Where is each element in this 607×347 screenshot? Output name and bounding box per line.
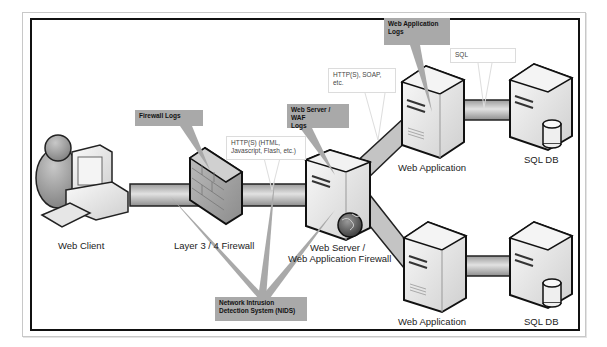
- web-server-label-line2: Web Application Firewall: [288, 253, 391, 264]
- callout-text: Web Server / WAF: [291, 106, 345, 122]
- user-computer-icon: [36, 135, 128, 227]
- http-html-callout: HTTP(S) (HTML, Javascript, Flash, etc.): [226, 136, 306, 160]
- callout-text: HTTP(S) (HTML,: [231, 139, 301, 147]
- firewall-label: Layer 3 / 4 Firewall: [174, 240, 254, 251]
- server-icon: [402, 66, 464, 158]
- database-server-icon: [510, 222, 572, 308]
- server-icon: [404, 222, 466, 312]
- callout-text: HTTP(S), SOAP,: [333, 71, 391, 79]
- sql-db-bottom-label: SQL DB: [524, 316, 559, 327]
- firewall-logs-callout: Firewall Logs: [135, 110, 203, 126]
- server-globe-icon: [306, 150, 370, 240]
- web-app-top-label: Web Application: [398, 162, 466, 173]
- http-soap-callout: HTTP(S), SOAP, etc.: [328, 68, 396, 93]
- callout-text: Firewall Logs: [139, 112, 181, 119]
- sql-db-top-label: SQL DB: [524, 154, 559, 165]
- callout-text: Javascript, Flash, etc.): [231, 147, 301, 155]
- callout-text: Web Application: [388, 20, 446, 28]
- callout-text: etc.: [333, 79, 391, 87]
- web-client-label: Web Client: [58, 240, 104, 251]
- web-server-waf-logs-callout: Web Server / WAF Logs: [287, 104, 349, 128]
- callout-text: Detection System (NIDS): [219, 307, 303, 315]
- callout-text: SQL: [455, 51, 468, 58]
- database-server-icon: [510, 64, 572, 150]
- callout-text: Logs: [388, 28, 446, 36]
- callout-text: Logs: [291, 122, 345, 130]
- web-app-bottom-label: Web Application: [398, 316, 466, 327]
- sql-callout: SQL: [450, 48, 516, 63]
- nids-callout: Network Intrusion Detection System (NIDS…: [215, 297, 307, 321]
- web-server-label-line1: Web Server /: [310, 242, 365, 253]
- web-app-logs-callout: Web Application Logs: [384, 18, 450, 45]
- callout-text: Network Intrusion: [219, 299, 303, 307]
